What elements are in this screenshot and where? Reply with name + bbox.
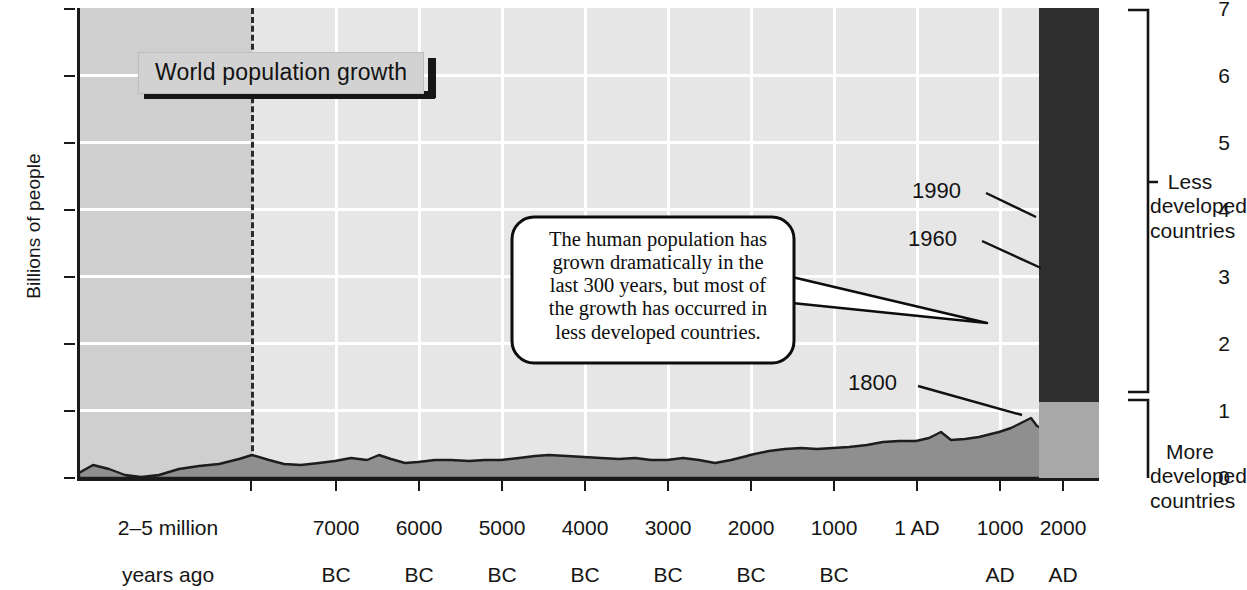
x-tick-label-prehistoric-line2: years ago	[78, 563, 258, 587]
x-tick-label-6000bc-line2: BC	[371, 563, 467, 587]
x-tick-label-2000bc-line2: BC	[703, 563, 799, 587]
x-tick-label-1000bc-line2: BC	[786, 563, 882, 587]
x-tick-label-5000bc-line2: BC	[454, 563, 550, 587]
legend-label-more-developed: More developed countries	[1150, 440, 1230, 513]
legend-label-less-developed: Less developed countries	[1150, 170, 1230, 243]
x-tick-label-4000bc-line2: BC	[537, 563, 633, 587]
x-tick-label-7000bc-line2: BC	[288, 563, 384, 587]
x-tick-label-3000bc-line2: BC	[620, 563, 716, 587]
x-tick-label-2000ad-line2: AD	[1015, 563, 1111, 587]
